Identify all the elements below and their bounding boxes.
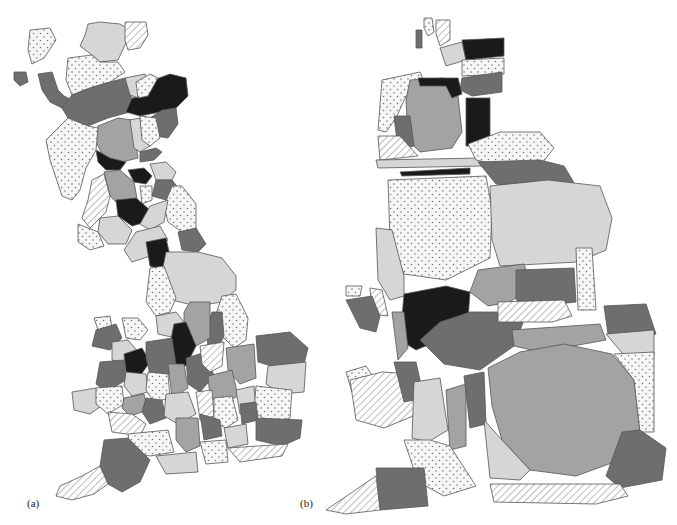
region-lewis <box>28 28 56 64</box>
region-small-isles <box>14 72 28 86</box>
carto-sussex-hatch <box>490 484 628 504</box>
map-a-geographic <box>14 22 308 500</box>
carto-islands-dark <box>416 30 422 48</box>
carto-humber-dots <box>576 248 596 310</box>
carto-lancs-dots <box>388 176 492 280</box>
region-tyne-dark <box>178 228 206 252</box>
carto-bristol-light <box>412 378 448 442</box>
map-b-cartogram <box>326 18 666 514</box>
carto-black-strip <box>400 168 470 176</box>
carto-oxon-mid <box>446 384 466 450</box>
carto-shetland <box>424 18 434 36</box>
region-surrey-light <box>224 424 248 448</box>
carto-borders-strip <box>376 158 482 168</box>
region-cornwall-hatch <box>56 466 108 500</box>
region-hereford-light <box>124 372 148 396</box>
region-glam-dots <box>96 386 124 414</box>
carto-midlands-hatch <box>498 300 572 322</box>
region-london-dark <box>240 402 258 424</box>
carto-yorkshire-light <box>490 180 612 266</box>
region-kent-dark <box>256 418 302 446</box>
panel-label-b: (b) <box>300 497 313 509</box>
carto-wales-light <box>346 286 362 296</box>
carto-berks-dark <box>464 372 486 428</box>
region-border-dots <box>140 186 152 204</box>
maps-svg <box>0 0 677 525</box>
region-wilts-mid <box>176 418 200 452</box>
region-caithness <box>125 22 148 50</box>
region-glos-dark <box>142 398 166 424</box>
region-lothian <box>150 162 176 180</box>
map-figure: (a) (b) <box>0 0 677 525</box>
carto-devon-dark <box>376 468 428 510</box>
carto-orkney <box>436 20 450 46</box>
region-sussex-hatch <box>228 444 288 462</box>
region-dorset-light <box>156 452 198 474</box>
region-clwyd-dots <box>122 318 148 340</box>
panel-label-a: (a) <box>27 497 39 509</box>
region-hants-dots <box>200 440 228 464</box>
carto-cornwall-hatch <box>326 476 380 514</box>
carto-north-black <box>462 38 504 60</box>
